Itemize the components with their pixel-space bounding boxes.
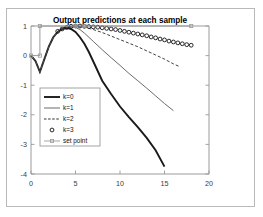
y-tick-label: -2 — [21, 110, 27, 119]
y-tick-label: 1 — [23, 22, 27, 31]
y-tick-label: -4 — [21, 170, 27, 179]
chart-figure: Output predictions at each sample 051015… — [0, 0, 263, 217]
legend-label: k=1 — [63, 104, 74, 111]
y-tick-label: -1 — [21, 81, 27, 90]
y-tick-label: 0 — [23, 51, 27, 60]
y-tick-label: -3 — [21, 140, 27, 149]
x-tick-label: 15 — [161, 179, 169, 188]
legend-label: k=3 — [63, 126, 74, 133]
legend-label: set point — [63, 137, 87, 145]
chart-svg: Output predictions at each sample 051015… — [0, 0, 263, 217]
x-tick-label: 10 — [116, 179, 124, 188]
x-tick-label: 20 — [205, 179, 213, 188]
legend-label: k=2 — [63, 115, 74, 122]
legend-label: k=0 — [63, 93, 74, 100]
legend: k=0k=1k=2k=3set point — [40, 88, 100, 146]
x-tick-label: 0 — [29, 179, 33, 188]
chart-title: Output predictions at each sample — [53, 16, 188, 25]
x-tick-label: 5 — [74, 179, 78, 188]
